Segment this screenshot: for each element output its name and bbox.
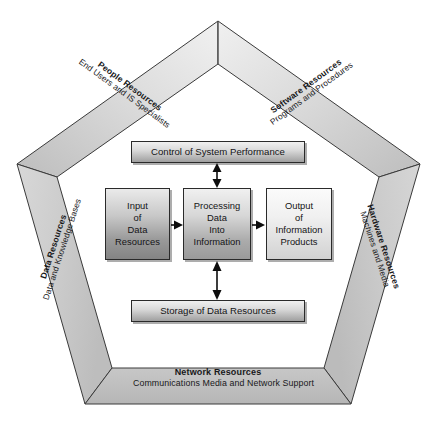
box-processing-line-1: Processing bbox=[194, 200, 240, 212]
box-input-line-3: Data bbox=[128, 224, 148, 236]
box-input-of-data-resources[interactable]: Input of Data Resources bbox=[105, 188, 170, 260]
box-output-line-1: Output bbox=[285, 200, 313, 212]
box-input-line-1: Input bbox=[127, 200, 148, 212]
box-storage-label: Storage of Data Resources bbox=[160, 305, 276, 317]
arrow-processing-to-output bbox=[252, 221, 265, 230]
box-output-line-3: Information bbox=[276, 224, 323, 236]
box-control-of-system-performance[interactable]: Control of System Performance bbox=[131, 141, 305, 163]
box-input-line-4: Resources bbox=[115, 236, 160, 248]
box-storage-of-data-resources[interactable]: Storage of Data Resources bbox=[131, 300, 305, 322]
box-output-line-4: Products bbox=[281, 236, 318, 248]
box-processing-line-4: Information bbox=[194, 236, 241, 248]
box-processing-line-2: Data bbox=[207, 212, 227, 224]
box-output-line-2: of bbox=[295, 212, 303, 224]
box-processing-line-3: Into bbox=[209, 224, 225, 236]
box-processing-data-into-information[interactable]: Processing Data Into Information bbox=[183, 188, 251, 260]
arrow-processing-to-storage bbox=[213, 261, 222, 300]
box-output-of-information-products[interactable]: Output of Information Products bbox=[266, 188, 332, 260]
box-input-line-2: of bbox=[134, 212, 142, 224]
arrow-input-to-processing bbox=[171, 221, 183, 230]
arrow-control-to-processing bbox=[213, 163, 222, 188]
box-control-label: Control of System Performance bbox=[151, 146, 285, 158]
diagram-canvas: People Resources End Users and IS Specia… bbox=[0, 0, 436, 424]
